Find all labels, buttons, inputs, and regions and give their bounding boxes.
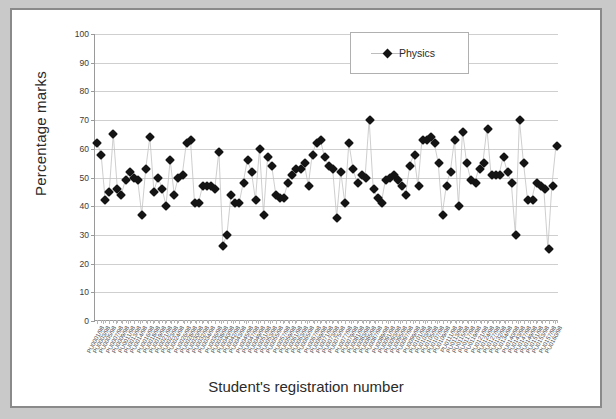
x-axis-minor-tick <box>158 320 159 323</box>
x-axis-minor-tick <box>524 320 525 323</box>
x-axis-minor-tick <box>496 320 497 323</box>
x-axis-minor-tick <box>227 320 228 323</box>
y-axis-tick-label: 20 <box>80 259 89 269</box>
y-axis-tick-label: 60 <box>80 144 89 154</box>
x-axis-minor-tick <box>223 320 224 323</box>
x-axis-minor-tick <box>382 320 383 323</box>
x-axis-minor-tick <box>419 320 420 323</box>
x-axis-tick-mark <box>208 320 209 324</box>
x-axis-minor-tick <box>549 320 550 323</box>
x-axis-minor-tick <box>264 320 265 323</box>
x-axis-minor-tick <box>528 320 529 323</box>
x-axis-minor-tick <box>541 320 542 323</box>
x-axis-tick-mark <box>363 320 364 324</box>
legend-label: Physics <box>399 47 435 59</box>
x-axis-minor-tick <box>276 320 277 323</box>
x-axis-minor-tick <box>500 320 501 323</box>
y-axis-tick-label: 10 <box>80 287 89 297</box>
x-axis-minor-tick <box>170 320 171 323</box>
x-axis-minor-tick <box>492 320 493 323</box>
x-axis-minor-tick <box>325 320 326 323</box>
x-axis-minor-tick <box>353 320 354 323</box>
x-axis-minor-tick <box>447 320 448 323</box>
x-axis-minor-tick <box>345 320 346 323</box>
x-axis-minor-tick <box>508 320 509 323</box>
x-axis-tick-mark <box>530 320 531 324</box>
physics-marker-icon <box>382 48 392 58</box>
x-axis-tick-mark <box>505 320 506 324</box>
x-axis-minor-tick <box>117 320 118 323</box>
x-axis-minor-tick <box>378 320 379 323</box>
x-axis-minor-tick <box>504 320 505 323</box>
x-axis-title: Student's registration number <box>12 378 600 395</box>
x-axis-tick-mark <box>555 320 556 324</box>
x-axis-minor-tick <box>207 320 208 323</box>
x-axis-tick-mark <box>542 320 543 324</box>
x-axis-minor-tick <box>296 320 297 323</box>
x-axis-minor-tick <box>459 320 460 323</box>
x-axis-minor-tick <box>211 320 212 323</box>
x-axis-minor-tick <box>471 320 472 323</box>
x-axis-minor-tick <box>427 320 428 323</box>
x-axis-minor-tick <box>252 320 253 323</box>
y-axis-tick-label: 0 <box>84 316 89 326</box>
x-axis-minor-tick <box>467 320 468 323</box>
x-axis-minor-tick <box>390 320 391 323</box>
x-axis-minor-tick <box>557 320 558 323</box>
x-axis-minor-tick <box>329 320 330 323</box>
x-axis-minor-tick <box>203 320 204 323</box>
x-axis-minor-tick <box>406 320 407 323</box>
x-axis-minor-tick <box>533 320 534 323</box>
x-axis-tick-mark <box>221 320 222 324</box>
x-axis-minor-tick <box>239 320 240 323</box>
x-axis-minor-tick <box>313 320 314 323</box>
x-axis-tick-mark <box>413 320 414 324</box>
x-axis-minor-tick <box>191 320 192 323</box>
x-axis-minor-tick <box>113 320 114 323</box>
chart-frame: Percentage marks 0102030405060708090100 … <box>10 8 602 408</box>
x-axis-minor-tick <box>150 320 151 323</box>
x-axis-minor-tick <box>256 320 257 323</box>
x-axis-minor-tick <box>520 320 521 323</box>
x-axis-minor-tick <box>321 320 322 323</box>
x-axis-minor-tick <box>97 320 98 323</box>
x-axis-minor-tick <box>142 320 143 323</box>
plot-area: 0102030405060708090100 PU0001/98PU0003/9… <box>94 34 558 321</box>
x-axis-minor-tick <box>101 320 102 323</box>
x-axis-tick-mark <box>326 320 327 324</box>
x-axis-tick-mark <box>233 320 234 324</box>
x-axis-minor-tick <box>199 320 200 323</box>
x-axis-minor-tick <box>219 320 220 323</box>
x-axis-tick-mark <box>493 320 494 324</box>
x-axis-minor-tick <box>463 320 464 323</box>
x-axis-minor-tick <box>130 320 131 323</box>
x-axis-minor-tick <box>105 320 106 323</box>
x-axis-minor-tick <box>451 320 452 323</box>
x-axis-minor-tick <box>154 320 155 323</box>
x-axis-tick-mark <box>184 320 185 324</box>
x-axis-tick-mark <box>375 320 376 324</box>
x-axis-minor-tick <box>423 320 424 323</box>
x-axis-minor-tick <box>516 320 517 323</box>
x-axis-minor-tick <box>126 320 127 323</box>
x-axis-minor-tick <box>215 320 216 323</box>
x-axis-minor-tick <box>162 320 163 323</box>
x-axis-minor-tick <box>280 320 281 323</box>
x-axis-tick-mark <box>400 320 401 324</box>
x-axis-minor-tick <box>309 320 310 323</box>
x-axis-minor-tick <box>386 320 387 323</box>
x-axis-minor-tick <box>109 320 110 323</box>
x-axis-tick-mark <box>338 320 339 324</box>
y-axis-tick-label: 90 <box>80 58 89 68</box>
x-axis-minor-tick <box>415 320 416 323</box>
x-axis-tick-mark <box>351 320 352 324</box>
x-axis-minor-tick <box>553 320 554 323</box>
y-axis-tick-label: 50 <box>80 173 89 183</box>
x-axis-minor-tick <box>178 320 179 323</box>
x-axis-minor-tick <box>402 320 403 323</box>
legend-entry: Physics <box>351 47 468 59</box>
x-axis-minor-tick <box>370 320 371 323</box>
x-axis-minor-tick <box>476 320 477 323</box>
x-axis-tick-mark <box>171 320 172 324</box>
x-axis-minor-tick <box>341 320 342 323</box>
